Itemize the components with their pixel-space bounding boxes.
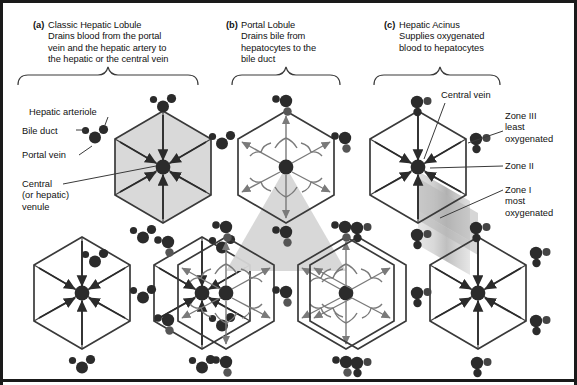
central-vein-dot-b2 bbox=[219, 286, 234, 301]
central-vein-dot-c2 bbox=[471, 286, 486, 301]
central-vein-dot-c1 bbox=[411, 160, 426, 175]
panel-a-group bbox=[18, 67, 250, 374]
panel-c-brace bbox=[374, 67, 500, 85]
central-vein-dot-b1 bbox=[279, 160, 294, 175]
central-vein-dot-a2 bbox=[75, 286, 90, 301]
diagram-canvas bbox=[0, 3, 577, 385]
panel-a-brace bbox=[18, 67, 198, 85]
central-vein-dot-a3 bbox=[195, 286, 210, 301]
panel-b-brace bbox=[232, 67, 340, 85]
central-vein-dot-a1 bbox=[156, 160, 171, 175]
